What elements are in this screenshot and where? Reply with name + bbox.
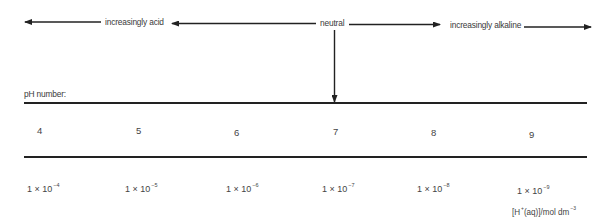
neutral-label: neutral — [320, 17, 344, 29]
h-concentration: 1 × 10−8 — [417, 179, 450, 195]
h-concentration: 1 × 10−4 — [27, 179, 60, 195]
ph-number-heading: pH number: — [24, 88, 66, 100]
top-rule — [24, 102, 587, 104]
bottom-rule — [24, 156, 587, 158]
h-concentration: 1 × 10−5 — [125, 179, 158, 195]
increasingly-acid-label: increasingly acid — [105, 16, 164, 28]
ph-value: 8 — [431, 127, 436, 139]
increasingly-alkaline-label: increasingly alkaline — [450, 19, 521, 31]
ph-value: 4 — [37, 125, 42, 137]
h-concentration: 1 × 10−9 — [517, 181, 550, 197]
ph-value: 9 — [529, 129, 534, 141]
concentration-unit-label: [H+(aq)]/mol dm−3 — [512, 202, 576, 218]
h-concentration: 1 × 10−6 — [226, 179, 259, 195]
ph-value: 7 — [333, 126, 338, 138]
h-concentration: 1 × 10−7 — [322, 179, 355, 195]
ph-value: 6 — [234, 127, 239, 139]
ph-value: 5 — [136, 125, 141, 137]
